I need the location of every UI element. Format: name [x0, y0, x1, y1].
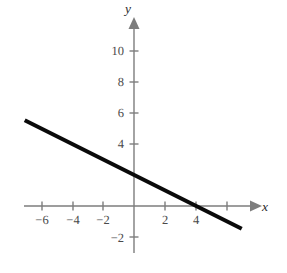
y-tick-label-4: 4 — [118, 137, 125, 151]
x-axis-arrow-icon — [250, 201, 262, 212]
y-axis-arrow-icon — [129, 17, 140, 29]
y-tick-label-8: 8 — [118, 75, 124, 89]
y-axis-label: y — [123, 1, 131, 16]
graph-figure: −6 −4 −2 2 4 10 8 6 4 −2 x y — [0, 0, 287, 273]
x-axis-label: x — [261, 199, 268, 214]
coordinate-plane-svg: −6 −4 −2 2 4 10 8 6 4 −2 x y — [0, 0, 287, 273]
x-tick-label-minus2: −2 — [96, 213, 109, 227]
x-tick-label-2: 2 — [162, 213, 168, 227]
x-tick-label-minus4: −4 — [66, 213, 80, 227]
x-tick-label-minus6: −6 — [35, 213, 48, 227]
y-tick-label-minus2: −2 — [111, 231, 124, 245]
x-tick-label-4: 4 — [193, 213, 200, 227]
y-tick-label-6: 6 — [118, 106, 124, 120]
y-tick-label-10: 10 — [112, 44, 125, 58]
plotted-line-series — [25, 120, 242, 229]
